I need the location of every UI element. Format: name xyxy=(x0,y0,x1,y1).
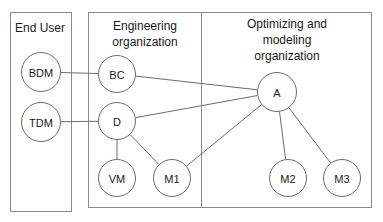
edge-m1-a xyxy=(187,105,262,166)
node-label-tdm: TDM xyxy=(29,117,53,129)
edge-d-a xyxy=(136,96,258,118)
node-label-d: D xyxy=(113,116,121,128)
panel-titles: End User Engineering organization Optimi… xyxy=(15,17,327,63)
panel-title-end-user: End User xyxy=(15,21,65,35)
node-label-bdm: BDM xyxy=(29,67,53,79)
edge-a-m2 xyxy=(280,112,286,159)
node-tdm[interactable]: TDM xyxy=(22,103,61,142)
node-d[interactable]: D xyxy=(99,103,136,140)
node-bc[interactable]: BC xyxy=(99,56,136,93)
node-layer: BDMTDMBCDVMM1AM2M3 xyxy=(22,53,361,197)
node-m1[interactable]: M1 xyxy=(154,160,191,197)
node-label-bc: BC xyxy=(109,69,124,81)
panel-title-optimizing-line3: organization xyxy=(254,49,319,63)
node-label-m1: M1 xyxy=(164,173,179,185)
node-bdm[interactable]: BDM xyxy=(22,53,61,92)
organization-diagram: End User Engineering organization Optimi… xyxy=(0,0,383,222)
node-m2[interactable]: M2 xyxy=(270,160,307,197)
panel-title-optimizing-line1: Optimizing and xyxy=(247,17,327,31)
edge-bdm-bc xyxy=(61,73,98,74)
edge-d-m1 xyxy=(130,135,159,165)
node-a[interactable]: A xyxy=(258,73,297,112)
node-label-vm: VM xyxy=(109,173,126,185)
node-label-m3: M3 xyxy=(334,173,349,185)
node-label-m2: M2 xyxy=(280,173,295,185)
diagram-canvas: End User Engineering organization Optimi… xyxy=(0,0,383,222)
node-m3[interactable]: M3 xyxy=(324,160,361,197)
edge-a-m3 xyxy=(289,108,330,163)
node-label-a: A xyxy=(273,87,281,99)
panel-group xyxy=(11,13,372,212)
panel-title-engineering-line2: organization xyxy=(112,35,177,49)
node-vm[interactable]: VM xyxy=(99,160,136,197)
edge-bc-a xyxy=(136,76,257,90)
panel-title-optimizing-line2: modeling xyxy=(263,33,312,47)
panel-title-engineering-line1: Engineering xyxy=(113,19,177,33)
